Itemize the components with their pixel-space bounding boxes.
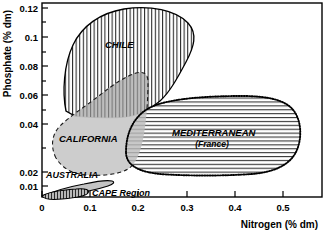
region-label-mediterranean: MEDITERRANEAN	[172, 127, 257, 138]
x-tick-label: 0	[39, 202, 44, 213]
y-tick-label: 0.1	[25, 32, 39, 43]
y-tick-label: 0.02	[20, 167, 39, 178]
y-tick-label: 0.04	[20, 119, 39, 130]
x-tick-label: 0.1	[83, 202, 97, 213]
region-label-australia: AUSTRALIA	[45, 170, 98, 180]
region-label-california: CALIFORNIA	[59, 133, 118, 144]
x-tick-label: 0.5	[276, 202, 290, 213]
region-label-cape: CAPE Region	[92, 188, 151, 198]
chart-container: CHILE CALIFORNIA MEDITERRANEAN (France) …	[0, 0, 326, 233]
x-tick-label: 0.3	[180, 202, 193, 213]
y-tick-label: 0.01	[20, 181, 39, 192]
x-axis-title: Nitrogen (% dm)	[241, 219, 318, 230]
y-tick-label: 0.08	[20, 61, 39, 72]
x-axis-tick-labels: 0 0.1 0.2 0.3 0.4 0.5	[39, 202, 290, 213]
region-sublabel-mediterranean: (France)	[195, 139, 229, 149]
y-tick-label: 0.12	[20, 3, 39, 14]
y-axis-tick-labels: 0.12 0.1 0.08 0.06 0.04 0.02 0.01	[20, 3, 39, 192]
region-label-chile: CHILE	[105, 39, 134, 50]
x-tick-label: 0.4	[228, 202, 242, 213]
y-tick-label: 0.06	[20, 90, 39, 101]
x-tick-label: 0.2	[131, 202, 144, 213]
scatter-region-chart: CHILE CALIFORNIA MEDITERRANEAN (France) …	[0, 0, 326, 233]
y-axis-title: Phosphate (% dm)	[2, 10, 13, 97]
